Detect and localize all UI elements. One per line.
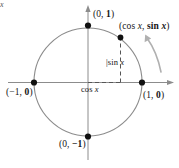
label-sin-segment: |sin x — [106, 58, 124, 67]
label-terminal-close: ) — [166, 21, 169, 31]
y-axis-arrowhead — [85, 5, 90, 12]
label-top-point: (0, 1) — [93, 10, 114, 20]
label-sin-var: x — [120, 57, 124, 67]
label-top-point-close: ) — [111, 9, 114, 19]
point-right — [139, 79, 145, 85]
label-bottom-open: (0, — [59, 139, 72, 149]
label-terminal-open: (cos — [119, 21, 138, 31]
point-terminal — [118, 35, 124, 41]
label-left-open: (−1, — [6, 87, 25, 97]
label-bottom-value: −1 — [72, 139, 82, 149]
label-top-point-open: (0, — [93, 9, 106, 19]
label-terminal-point: (cos x, sin x) — [119, 22, 170, 32]
unit-circle-figure: (0, 1) (cos x, sin x) x |sin x cos x (−1… — [0, 0, 179, 168]
label-bottom-point: (0, −1) — [59, 140, 86, 150]
arc-direction-arrowhead — [145, 35, 152, 43]
label-terminal-fn2: sin — [147, 21, 161, 31]
x-axis-arrowhead — [167, 80, 174, 85]
point-left — [31, 79, 37, 85]
label-cos-var: x — [95, 84, 99, 94]
label-left-close: ) — [29, 87, 32, 97]
arc-direction-arrow — [147, 38, 161, 72]
point-top — [85, 22, 91, 28]
label-right-point: (1, 0) — [143, 91, 164, 101]
label-cos-segment: cos x — [81, 85, 99, 94]
label-sin-fn: sin — [108, 57, 120, 67]
label-cos-fn: cos — [81, 84, 95, 94]
label-bottom-close: ) — [82, 139, 85, 149]
label-left-point: (−1, 0) — [6, 88, 33, 98]
label-right-open: (1, — [143, 90, 156, 100]
label-right-close: ) — [161, 90, 164, 100]
